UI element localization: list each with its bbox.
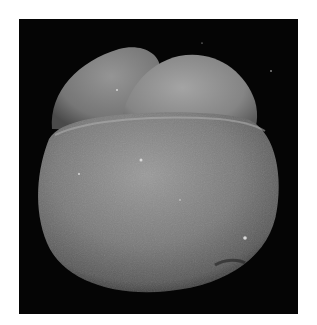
final-chamber xyxy=(38,112,279,292)
micrograph-frame xyxy=(19,19,298,314)
foraminifera-specimen xyxy=(19,19,298,314)
